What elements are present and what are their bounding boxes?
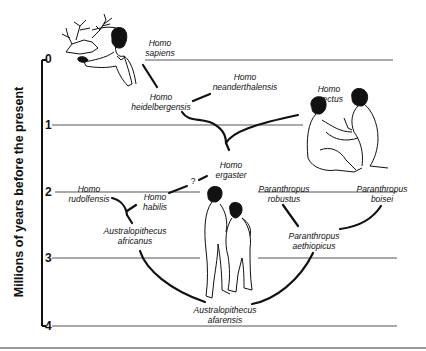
label-homo-ergaster: Homo ergaster (211, 160, 251, 180)
erectus-kneeling-head (352, 88, 368, 106)
species: rudolfensis (66, 194, 112, 204)
label-paranthropus-aethiopicus: Paranthropus aethiopicus (286, 231, 342, 251)
link-africanus-habilis (127, 205, 136, 211)
tick-label-0: 0 (45, 52, 52, 66)
hominin-evolution-diagram: Millions of years before the present 0 1… (0, 0, 426, 351)
genus: Homo (140, 38, 180, 48)
species: heidelbergensis (128, 102, 194, 112)
species: boisei (354, 194, 410, 204)
genus: Australopithecus (190, 305, 260, 315)
label-paranthropus-robustus: Paranthropus robustus (256, 184, 312, 204)
link-ergaster-erectus (226, 115, 298, 143)
erectus-seated-arms (322, 120, 358, 140)
link-africanus-rudolfensis (112, 198, 127, 215)
link-ergaster-stem (226, 143, 229, 150)
afarensis-short-body (226, 218, 252, 292)
tick-label-1: 1 (45, 118, 52, 132)
species: habilis (138, 202, 172, 212)
species: erectus (314, 94, 344, 104)
link-heidelbergensis-ergaster (182, 112, 226, 143)
erectus-kneeling-leg (354, 132, 363, 166)
tick-label-2: 2 (45, 185, 52, 199)
link-aethiopicus-boisei (340, 206, 381, 229)
genus: Homo (128, 92, 194, 102)
afarensis-tall-head (208, 186, 222, 202)
label-homo-erectus: Homo erectus (314, 84, 344, 104)
label-paranthropus-boisei: Paranthropus boisei (354, 184, 410, 204)
species: aethiopicus (286, 241, 342, 251)
tick-label-3: 3 (45, 251, 52, 265)
erectus-kneeling-body (352, 104, 388, 168)
afarensis-short-head (230, 202, 242, 218)
australopithecus-illustration (205, 186, 252, 298)
y-axis-title: Millions of years before the present (12, 82, 26, 302)
link-heidelbergensis-sapiens (143, 65, 157, 87)
painter-body-arm (84, 44, 132, 86)
label-australopithecus-africanus: Australopithecus africanus (100, 226, 170, 246)
genus: Homo (66, 184, 112, 194)
label-australopithecus-afarensis: Australopithecus afarensis (190, 305, 260, 325)
species: robustus (256, 194, 312, 204)
painter-hair (112, 27, 127, 48)
link-afarensis-africanus (140, 251, 205, 302)
label-homo-heidelbergensis: Homo heidelbergensis (128, 92, 194, 112)
uncertain-link-marker: ? (188, 176, 198, 186)
genus: Homo (211, 160, 251, 170)
erectus-seated-leg (320, 148, 356, 170)
painter-hand (78, 57, 88, 63)
genus: Paranthropus (286, 231, 342, 241)
deer-back (92, 27, 116, 30)
species: africanus (100, 236, 170, 246)
link-africanus-stem (127, 215, 132, 223)
link-aethiopicus-robustus (283, 205, 298, 226)
link-ergaster-habilis-upper (199, 176, 207, 180)
tick-label-4: 4 (45, 319, 52, 333)
cave-painter-illustration (62, 14, 136, 86)
genus: Australopithecus (100, 226, 170, 236)
afarensis-tall-arm (220, 204, 227, 232)
genus: Homo (138, 192, 172, 202)
link-afarensis-aethiopicus (252, 253, 313, 304)
genus: Paranthropus (256, 184, 312, 194)
deer-antlers-right (92, 14, 112, 38)
genus: Homo (212, 72, 278, 82)
genus: Homo (314, 84, 344, 94)
label-homo-rudolfensis: Homo rudolfensis (66, 184, 112, 204)
label-homo-habilis: Homo habilis (138, 192, 172, 212)
label-homo-sapiens: Homo sapiens (140, 38, 180, 58)
species: afarensis (190, 315, 260, 325)
species: ergaster (211, 170, 251, 180)
species: neanderthalensis (212, 82, 278, 92)
erectus-tool (344, 118, 352, 130)
label-homo-neanderthalensis: Homo neanderthalensis (212, 72, 278, 92)
genus: Paranthropus (354, 184, 410, 194)
link-heidelbergensis-neanderthalensis (193, 94, 210, 101)
erectus-seated-body (307, 114, 362, 172)
species: sapiens (140, 48, 180, 58)
